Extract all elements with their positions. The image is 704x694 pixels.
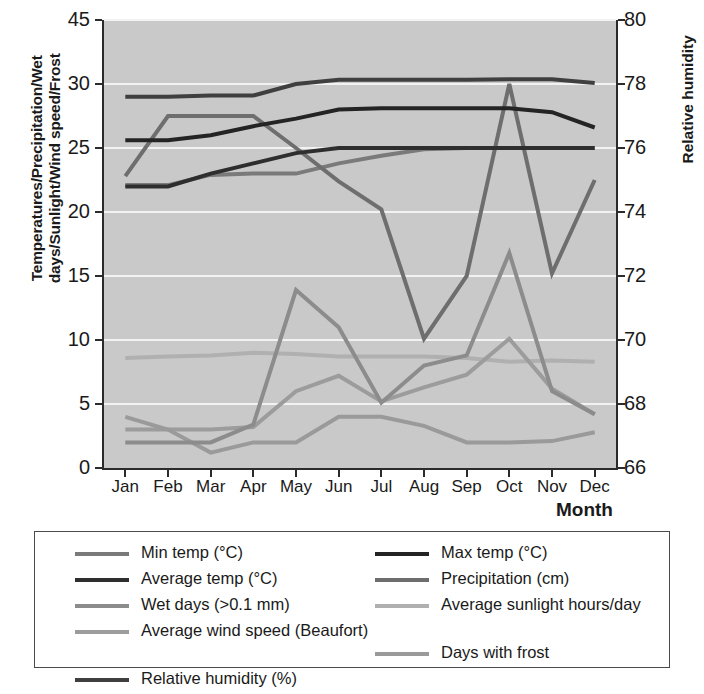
y-axis-right-title: Relative humidity	[679, 0, 696, 164]
x-axis-tick-label: Apr	[230, 478, 276, 495]
y-axis-right-tick-label: 66	[624, 457, 664, 477]
y-axis-left-tick	[95, 147, 102, 149]
legend-color-swatch	[375, 604, 429, 608]
legend-color-swatch	[75, 604, 129, 608]
y-axis-left-tick	[95, 275, 102, 277]
plot-region	[104, 20, 616, 468]
y-axis-left-tick-label: 45	[50, 9, 90, 29]
legend-item-label: Wet days (>0.1 mm)	[141, 595, 290, 614]
x-axis-tick	[338, 470, 340, 477]
legend-item: Average wind speed (Beaufort)	[75, 621, 375, 667]
y-axis-right-tick-label: 74	[624, 201, 664, 221]
series-line	[125, 253, 594, 442]
legend-item: Max temp (°C)	[375, 543, 665, 567]
y-axis-left-tick-label: 30	[50, 73, 90, 93]
x-axis-tick-label: Oct	[486, 478, 532, 495]
x-axis-tick	[508, 470, 510, 477]
y-axis-left-tick	[95, 339, 102, 341]
climate-chart-figure: Temperatures/Precipitation/Wet days/Sunl…	[0, 0, 704, 694]
x-axis-tick	[252, 470, 254, 477]
legend-item-label: Relative humidity (%)	[141, 669, 297, 688]
x-axis-tick-label: Feb	[145, 478, 191, 495]
x-axis-tick-label: Jul	[358, 478, 404, 495]
legend-color-swatch	[75, 630, 129, 634]
legend-item: Relative humidity (%)	[75, 669, 375, 693]
x-axis-tick	[423, 470, 425, 477]
legend-item-label: Average temp (°C)	[141, 569, 278, 588]
legend-item: Days with frost	[375, 643, 665, 667]
y-axis-right-tick-label: 72	[624, 265, 664, 285]
y-axis-right-tick-label: 80	[624, 9, 664, 29]
legend-column-left: Min temp (°C)Average temp (°C)Wet days (…	[75, 543, 375, 694]
y-axis-right-tick-label: 68	[624, 393, 664, 413]
x-axis-tick	[594, 470, 596, 477]
legend-item-label: Average sunlight hours/day	[441, 595, 641, 614]
legend-item-label: Days with frost	[441, 643, 549, 662]
x-axis-tick	[466, 470, 468, 477]
y-axis-left-tick-label: 0	[50, 457, 90, 477]
x-axis	[102, 468, 618, 470]
y-axis-left	[102, 20, 104, 470]
x-axis-tick	[551, 470, 553, 477]
series-line	[125, 108, 594, 140]
series-line	[125, 417, 594, 453]
y-axis-left-tick-label: 5	[50, 393, 90, 413]
x-axis-tick-label: May	[273, 478, 319, 495]
legend-item: Wet days (>0.1 mm)	[75, 595, 375, 619]
legend-color-swatch	[75, 552, 129, 556]
legend-color-swatch	[375, 652, 429, 656]
x-axis-tick-label: Dec	[572, 478, 618, 495]
legend-color-swatch	[75, 678, 129, 682]
legend-item: Min temp (°C)	[75, 543, 375, 567]
x-axis-tick	[210, 470, 212, 477]
y-axis-right-tick-label: 76	[624, 137, 664, 157]
x-axis-tick-label: Mar	[188, 478, 234, 495]
legend-item-label: Max temp (°C)	[441, 543, 548, 562]
x-axis-title: Month	[556, 499, 613, 521]
x-axis-tick	[295, 470, 297, 477]
y-axis-right-tick-label: 70	[624, 329, 664, 349]
x-axis-tick-label: Aug	[401, 478, 447, 495]
chart-legend: Min temp (°C)Average temp (°C)Wet days (…	[34, 531, 670, 668]
x-axis-tick	[380, 470, 382, 477]
y-axis-left-tick-label: 15	[50, 265, 90, 285]
legend-item-label: Average wind speed (Beaufort)	[141, 621, 368, 640]
y-axis-left-tick-label: 20	[50, 201, 90, 221]
x-axis-tick-label: Jan	[102, 478, 148, 495]
legend-color-swatch	[375, 552, 429, 556]
x-axis-tick-label: Nov	[529, 478, 575, 495]
legend-item-label: Min temp (°C)	[141, 543, 243, 562]
x-axis-tick	[167, 470, 169, 477]
y-axis-left-tick	[95, 19, 102, 21]
x-axis-tick-label: Jun	[316, 478, 362, 495]
legend-item: Average temp (°C)	[75, 569, 375, 593]
y-axis-left-tick-label: 25	[50, 137, 90, 157]
y-axis-left-tick	[95, 211, 102, 213]
x-axis-tick	[124, 470, 126, 477]
y-axis-left-tick	[95, 403, 102, 405]
chart-area: Temperatures/Precipitation/Wet days/Sunl…	[0, 0, 704, 520]
legend-item: Precipitation (cm)	[375, 569, 665, 593]
y-axis-left-tick	[95, 83, 102, 85]
legend-item: Average sunlight hours/day	[375, 595, 665, 641]
y-axis-left-tick	[95, 467, 102, 469]
legend-item-label: Precipitation (cm)	[441, 569, 569, 588]
series-line	[125, 79, 594, 97]
series-lines	[104, 20, 616, 468]
y-axis-left-tick-label: 10	[50, 329, 90, 349]
x-axis-tick-label: Sep	[444, 478, 490, 495]
legend-color-swatch	[75, 578, 129, 582]
y-axis-right-tick-label: 78	[624, 73, 664, 93]
legend-color-swatch	[375, 578, 429, 582]
legend-column-right: Max temp (°C)Precipitation (cm)Average s…	[375, 543, 665, 669]
